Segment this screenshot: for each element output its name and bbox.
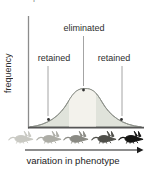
retained-right-label: retained xyxy=(88,53,140,63)
mouse-icon xyxy=(8,130,34,144)
mouse-icon xyxy=(91,130,117,144)
mouse-icon xyxy=(63,130,89,144)
y-axis-label: frequency xyxy=(3,38,14,108)
mouse-icon xyxy=(118,130,144,144)
x-axis-label: variation in phenotype xyxy=(8,155,138,166)
eliminated-dot xyxy=(82,89,85,92)
x-direction-arrow xyxy=(25,147,144,153)
retained-right-dot xyxy=(120,118,123,121)
retained-left-label: retained xyxy=(28,53,80,63)
specimen-row xyxy=(8,129,144,144)
disruptive-selection-figure: disruptive selection eliminated retained… xyxy=(0,0,146,175)
retained-left-dot xyxy=(47,118,50,121)
eliminated-label: eliminated xyxy=(50,23,118,33)
mouse-icon xyxy=(36,130,62,144)
